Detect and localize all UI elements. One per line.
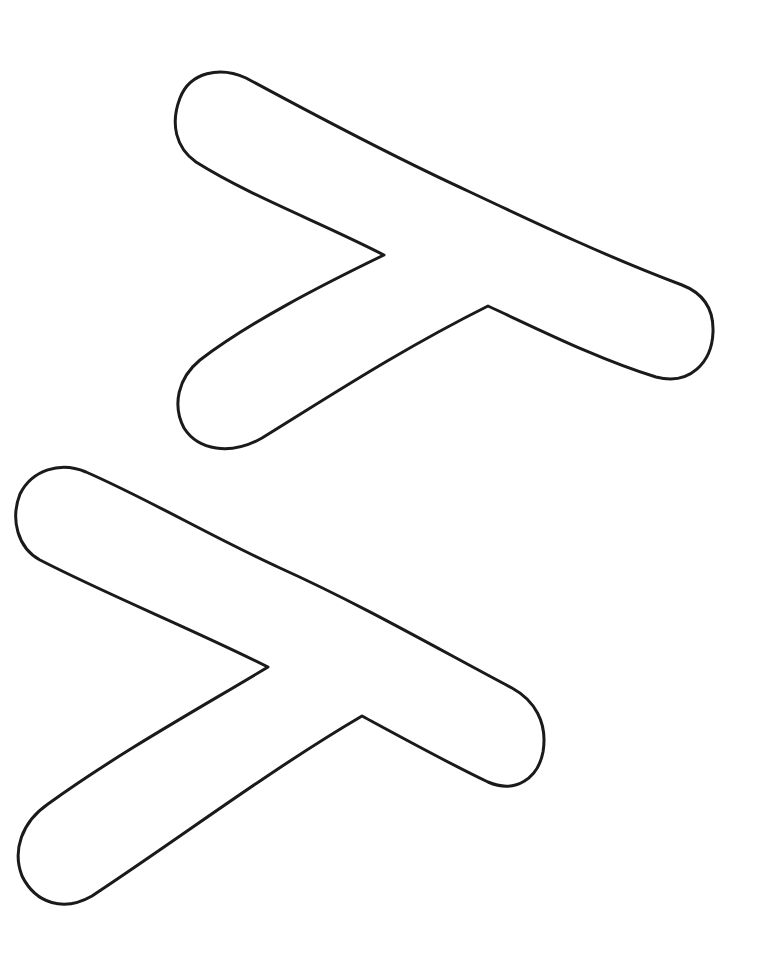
lower-y-shape	[16, 467, 544, 904]
drawing-canvas	[0, 0, 762, 965]
upper-y-shape	[175, 72, 713, 449]
